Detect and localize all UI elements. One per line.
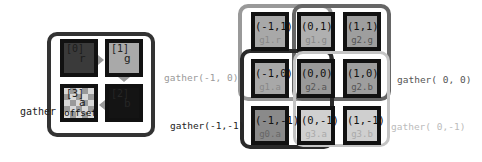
arrow-down-icon bbox=[118, 77, 130, 82]
texel-1-green: [1] g bbox=[105, 39, 143, 77]
texel-2-blue: [2] b bbox=[105, 84, 143, 122]
cell-source: g2.a bbox=[301, 82, 331, 93]
cell-coord: (1,-1) bbox=[347, 114, 377, 126]
cell-source: g3.b bbox=[347, 129, 377, 140]
cell-coord: (-1,1) bbox=[255, 20, 285, 32]
arrow-right-icon bbox=[98, 55, 104, 65]
cell-source: g1.g bbox=[301, 35, 331, 46]
cell-coord: (0,-1) bbox=[301, 114, 331, 126]
cell-source: g2.b bbox=[347, 82, 377, 93]
cell-source: g0.a bbox=[255, 129, 285, 140]
gather-label-g2: gather( 0, 0) bbox=[397, 74, 471, 85]
grid-cell: (0,0) g2.a bbox=[297, 59, 335, 98]
grid-cell: (0,1) g1.g bbox=[297, 12, 335, 51]
cell-coord: (1,0) bbox=[347, 67, 377, 79]
texel-offset-label: offset bbox=[64, 108, 97, 118]
grid-cell: (-1,0) g1.a bbox=[251, 59, 289, 98]
cell-coord: (1,1) bbox=[347, 20, 377, 32]
cell-source: g1.r bbox=[255, 35, 285, 46]
cell-source: g3.a bbox=[301, 129, 331, 140]
texel-channel: b bbox=[124, 98, 131, 110]
texel-channel: g bbox=[124, 53, 131, 65]
grid-cell: (-1,1) g1.r bbox=[251, 12, 289, 51]
cell-source: g2.g bbox=[347, 35, 377, 46]
grid-cell: (-1,-1) g0.a bbox=[251, 106, 289, 145]
cell-coord: (-1,0) bbox=[255, 67, 285, 79]
gather-label-g0: gather(-1,-1) bbox=[170, 120, 244, 131]
gather-label-g1: gather(-1, 0) bbox=[164, 72, 238, 83]
gather-label: gather bbox=[20, 106, 56, 117]
cell-coord: (0,1) bbox=[301, 20, 331, 32]
texel-3-alpha: [3] a offset bbox=[60, 84, 98, 122]
texel-0-red: [0] r bbox=[60, 39, 98, 77]
grid-cell: (1,0) g2.b bbox=[343, 59, 381, 98]
grid-cell: (1,1) g2.g bbox=[343, 12, 381, 51]
arrow-left-icon bbox=[99, 100, 105, 110]
cell-coord: (0,0) bbox=[301, 67, 331, 79]
gather-label-g3: gather( 0,-1) bbox=[391, 121, 465, 132]
cell-source: g1.a bbox=[255, 82, 285, 93]
grid-cell: (1,-1) g3.b bbox=[343, 106, 381, 145]
texel-channel: r bbox=[79, 53, 86, 65]
cell-coord: (-1,-1) bbox=[255, 114, 285, 126]
grid-cell: (0,-1) g3.a bbox=[297, 106, 335, 145]
